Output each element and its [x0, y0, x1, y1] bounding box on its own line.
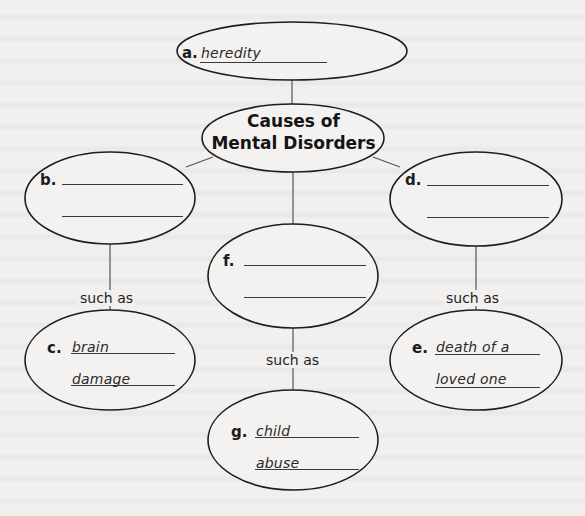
node-a-answer-line1[interactable]: heredity: [201, 45, 261, 61]
node-e-letter: e.: [412, 339, 428, 357]
node-d-blank-line1: [427, 185, 549, 186]
node-e-blank-line1: [435, 354, 540, 355]
node-e-ellipse: [390, 310, 562, 410]
center-title-line1: Causes of: [203, 110, 384, 132]
center-title-line2: Mental Disorders: [203, 132, 384, 154]
diagram-graphics: [0, 0, 585, 516]
node-b-blank-line2: [62, 216, 183, 217]
connector-label-b-c: such as: [78, 290, 135, 306]
node-e-answer-line1[interactable]: death of a: [436, 339, 509, 355]
connector-center-b: [186, 157, 213, 167]
node-g-blank-line2: [255, 469, 359, 470]
center-node-title: Causes of Mental Disorders: [203, 110, 384, 154]
node-b-letter: b.: [40, 171, 56, 189]
node-f-letter: f.: [223, 252, 234, 270]
node-f-blank-line2: [244, 297, 366, 298]
node-e-blank-line2: [435, 387, 540, 388]
node-c-ellipse: [25, 310, 195, 410]
node-f-ellipse: [208, 224, 378, 328]
node-a-blank-line1: [200, 62, 327, 63]
connector-label-d-e: such as: [444, 290, 501, 306]
node-d-ellipse: [390, 152, 562, 246]
node-e-answer-line2[interactable]: loved one: [436, 371, 507, 387]
node-b-ellipse: [25, 152, 195, 244]
node-c-blank-line2: [71, 385, 175, 386]
node-g-letter: g.: [231, 423, 247, 441]
node-a-letter: a.: [182, 44, 198, 62]
connector-label-f-g: such as: [264, 352, 321, 368]
node-b-blank-line1: [62, 184, 183, 185]
node-g-blank-line1: [255, 437, 359, 438]
connector-center-d: [373, 157, 400, 167]
node-c-blank-line1: [71, 353, 175, 354]
node-d-letter: d.: [405, 171, 421, 189]
node-c-letter: c.: [47, 339, 62, 357]
node-d-blank-line2: [427, 217, 549, 218]
node-f-blank-line1: [244, 265, 366, 266]
